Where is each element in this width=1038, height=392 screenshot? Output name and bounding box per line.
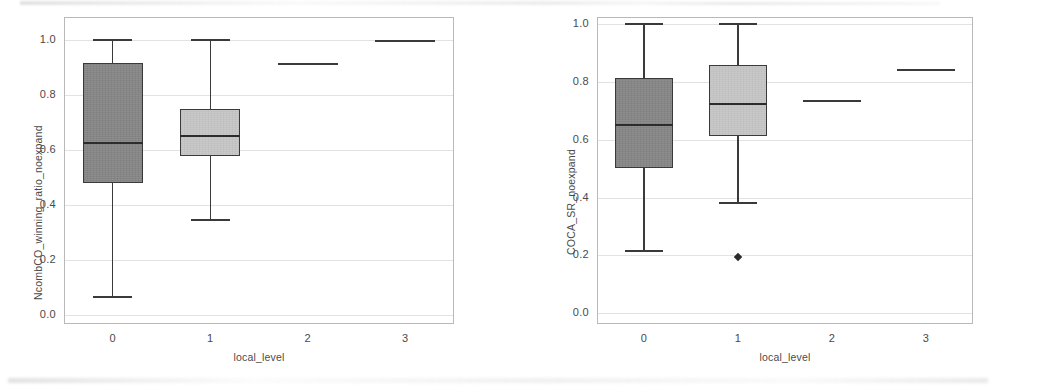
whisker-cap-upper	[191, 39, 230, 41]
whisker-upper	[210, 39, 211, 109]
whisker-cap-lower	[191, 219, 230, 221]
y-axis-tick-label: 1.0	[24, 33, 56, 45]
x-axis-tick-label: 0	[110, 332, 116, 344]
boxplot-degenerate-line	[278, 63, 338, 65]
x-axis-label: local_level	[759, 351, 810, 363]
box-texture	[616, 79, 672, 167]
gridline-y	[65, 260, 453, 261]
x-axis-tick-label: 1	[207, 332, 213, 344]
boxplot-box[interactable]	[615, 78, 673, 168]
x-axis-tick-label: 0	[641, 332, 647, 344]
whisker-lower	[112, 183, 113, 295]
median-line	[180, 135, 240, 137]
whisker-upper	[112, 39, 113, 62]
x-axis-label: local_level	[233, 351, 284, 363]
y-axis-tick-label: 0.6	[557, 133, 589, 145]
whisker-cap-upper	[93, 39, 132, 41]
median-line	[615, 124, 673, 126]
y-axis-tick-label: 1.0	[557, 17, 589, 29]
y-axis-tick-label: 0.8	[24, 88, 56, 100]
boxplot-degenerate-line	[375, 40, 435, 42]
x-axis-tick-label: 3	[402, 332, 408, 344]
gridline-y	[65, 205, 453, 206]
whisker-lower	[737, 136, 738, 203]
x-axis-tick-label: 2	[305, 332, 311, 344]
gridline-y	[65, 315, 453, 316]
y-axis-label: COCA_SR_noexpand	[565, 149, 577, 255]
whisker-cap-upper	[625, 23, 662, 25]
whisker-cap-lower	[719, 202, 756, 204]
y-axis-tick-label: 0.8	[557, 75, 589, 87]
gridline-y	[598, 198, 972, 199]
whisker-upper	[643, 23, 644, 78]
gridline-y	[598, 255, 972, 256]
whisker-cap-lower	[93, 296, 132, 298]
x-axis-tick-label: 1	[735, 332, 741, 344]
median-line	[83, 142, 143, 144]
boxplot-panel-left: 0.00.20.40.60.81.0NcombCO_winning_ratio_…	[0, 0, 519, 392]
y-axis-label: NcombCO_winning_ratio_noexpand	[32, 125, 44, 300]
x-axis-tick-label: 2	[829, 332, 835, 344]
whisker-cap-lower	[625, 250, 662, 252]
boxplot-box[interactable]	[180, 109, 240, 156]
box-texture	[84, 64, 142, 183]
whisker-lower	[643, 168, 644, 251]
whisker-cap-upper	[719, 23, 756, 25]
boxplot-box[interactable]	[709, 65, 767, 136]
boxplot-degenerate-line	[897, 69, 955, 71]
whisker-lower	[210, 156, 211, 219]
gridline-y	[598, 313, 972, 314]
boxplot-degenerate-line	[803, 100, 861, 102]
median-line	[709, 103, 767, 105]
boxplot-panel-right: 0.00.20.40.60.81.0COCA_SR_noexpand0123lo…	[519, 0, 1038, 392]
x-axis-tick-label: 3	[923, 332, 929, 344]
plot-area	[597, 17, 973, 324]
box-texture	[710, 66, 766, 135]
y-axis-tick-label: 0.0	[557, 306, 589, 318]
box-texture	[181, 110, 239, 155]
y-axis-tick-label: 0.0	[24, 308, 56, 320]
whisker-upper	[737, 23, 738, 65]
boxplot-box[interactable]	[83, 63, 143, 184]
